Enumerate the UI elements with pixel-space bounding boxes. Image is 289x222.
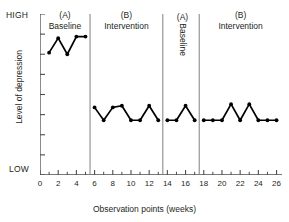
data-point <box>74 35 78 39</box>
data-point <box>202 118 206 122</box>
data-line <box>204 104 277 120</box>
data-point <box>184 104 188 108</box>
phase-header-a2: (A)Baseline <box>174 12 188 56</box>
phase-label: Baseline <box>40 21 90 32</box>
data-point <box>256 118 260 122</box>
data-point <box>156 118 160 122</box>
phase-header-b2: (B)Intervention <box>199 10 282 32</box>
phase-header-a1: (A)Baseline <box>40 10 90 32</box>
x-axis-tick-label: 8 <box>111 179 115 188</box>
y-axis-low-label: LOW <box>9 164 29 174</box>
data-point <box>65 52 69 56</box>
x-axis-tick-label: 10 <box>127 179 136 188</box>
data-point <box>229 102 233 106</box>
phase-letter: (B) <box>90 10 163 21</box>
data-point <box>238 118 242 122</box>
data-line <box>49 37 85 55</box>
x-axis-tick-label: 14 <box>163 179 172 188</box>
x-axis-tick-label: 22 <box>236 179 245 188</box>
chart-figure: HIGH LOW Level of depression Observation… <box>0 0 289 222</box>
data-point <box>102 118 106 122</box>
y-axis-high-label: HIGH <box>6 10 28 20</box>
plot-area <box>40 14 282 175</box>
x-axis-tick-label: 4 <box>74 179 78 188</box>
data-point <box>175 118 179 122</box>
phase-letter: (B) <box>199 10 282 21</box>
phase-letter: (A) <box>177 12 188 23</box>
data-point <box>84 35 88 39</box>
data-point <box>193 118 197 122</box>
data-point <box>93 105 97 109</box>
data-point <box>247 102 251 106</box>
data-point <box>47 51 51 55</box>
data-point <box>56 36 60 40</box>
x-axis-tick-label: 18 <box>199 179 208 188</box>
data-point <box>220 118 224 122</box>
x-axis-tick-label: 12 <box>145 179 154 188</box>
x-axis-tick-label: 0 <box>38 179 42 188</box>
data-point <box>266 118 270 122</box>
x-axis-title: Observation points (weeks) <box>0 204 289 214</box>
x-axis-tick-label: 26 <box>272 179 281 188</box>
data-point <box>211 118 215 122</box>
data-point <box>129 118 133 122</box>
data-line <box>95 106 159 120</box>
data-point <box>165 118 169 122</box>
x-axis-tick-label: 2 <box>56 179 60 188</box>
y-axis-title: Level of depression <box>14 32 24 142</box>
data-point <box>111 105 115 109</box>
x-axis-tick-label: 20 <box>218 179 227 188</box>
phase-label: Baseline <box>178 23 188 56</box>
data-point <box>138 118 142 122</box>
chart-svg <box>40 14 282 175</box>
data-point <box>275 118 279 122</box>
data-point <box>120 104 124 108</box>
phase-label: Intervention <box>90 21 163 32</box>
x-axis-tick-label: 24 <box>254 179 263 188</box>
data-line <box>167 106 194 120</box>
phase-header-b1: (B)Intervention <box>90 10 163 32</box>
x-axis-tick-label: 6 <box>92 179 96 188</box>
data-point <box>147 104 151 108</box>
phase-label: Intervention <box>199 21 282 32</box>
x-axis-tick-label: 16 <box>181 179 190 188</box>
phase-letter: (A) <box>40 10 90 21</box>
